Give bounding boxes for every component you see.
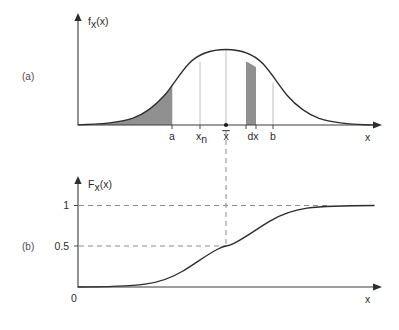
tick-label-xn: xn xyxy=(196,130,207,145)
shaded-left-tail-region xyxy=(78,85,172,126)
tick-label-dx: dx xyxy=(247,130,259,142)
panel-b-y-axis-label-tail: (x) xyxy=(100,178,112,190)
panel-b-x-axis-label: x xyxy=(365,293,371,305)
panel-b-x-axis-arrow-icon xyxy=(373,283,382,290)
panel-a-x-axis-label: x xyxy=(365,131,371,143)
panel-a-x-axis-arrow-icon xyxy=(373,121,382,128)
origin-label: 0 xyxy=(71,292,77,304)
tick-label-a: a xyxy=(169,130,175,142)
shaded-dx-strip-region xyxy=(246,62,256,126)
tick-label-xn-sub: n xyxy=(201,133,207,145)
panel-b-group: Fx(x) x 1 0.5 0 (b) xyxy=(22,176,382,305)
cdf-curve xyxy=(78,206,374,288)
tick-label-b: b xyxy=(270,130,276,142)
panel-a-label: (a) xyxy=(22,71,34,82)
panel-b-y-axis-label: Fx(x) xyxy=(88,178,112,193)
panel-b-y-axis-arrow-icon xyxy=(74,176,81,184)
mean-marker-dot xyxy=(224,123,228,127)
panel-a-y-axis-label: fx(x) xyxy=(88,15,108,30)
panel-a-y-axis-label-tail: (x) xyxy=(96,15,108,27)
ytick-label-one: 1 xyxy=(63,199,69,211)
ytick-label-half: 0.5 xyxy=(54,240,69,252)
panel-a-y-axis-arrow-icon xyxy=(74,13,81,21)
panel-a-group: fx(x) x a xn x dx b (a) xyxy=(22,13,382,145)
panel-b-label: (b) xyxy=(22,241,34,252)
figure-container: fx(x) x a xn x dx b (a) xyxy=(0,0,399,330)
figure-svg: fx(x) x a xn x dx b (a) xyxy=(0,0,399,330)
